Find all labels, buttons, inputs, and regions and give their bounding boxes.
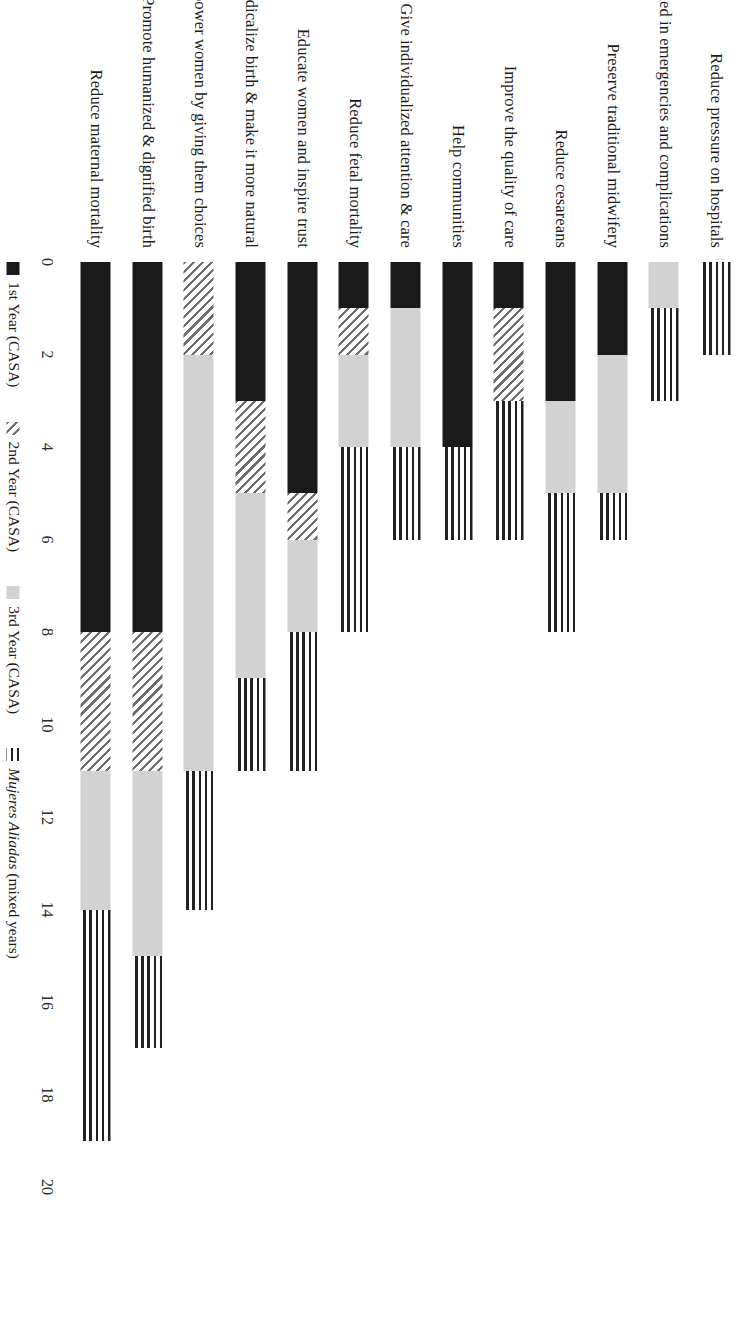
x-axis-tick: 4 bbox=[37, 443, 55, 451]
bar-row: Empower women by giving them choices bbox=[172, 262, 224, 1187]
bar-segment-4 bbox=[648, 308, 678, 401]
chart-legend: 1st Year (CASA)2nd Year (CASA)3rd Year (… bbox=[1, 262, 25, 1187]
bar-segment-4 bbox=[493, 401, 523, 540]
bar-segment-3 bbox=[132, 771, 162, 956]
x-axis-tick: 18 bbox=[37, 1087, 55, 1103]
bar-segment-4 bbox=[597, 493, 627, 539]
stacked-bar-chart: Reduce pressure on hospitalsTrained in e… bbox=[0, 0, 755, 1324]
category-label: Reduce pressure on hospitals bbox=[707, 53, 724, 248]
legend-label: 3rd Year (CASA) bbox=[4, 606, 22, 714]
legend-item[interactable]: Mujeres Aliadas (mixed years) bbox=[4, 748, 22, 959]
stacked-bar bbox=[235, 262, 265, 771]
category-label: Preserve traditional midwifery bbox=[604, 43, 621, 248]
bar-row: De-medicalize birth & make it more natur… bbox=[224, 262, 276, 1187]
bar-row: Reduce fetal mortality bbox=[328, 262, 380, 1187]
bar-segment-2 bbox=[132, 632, 162, 771]
x-axis-tick: 16 bbox=[37, 994, 55, 1010]
category-label: Promote humanized & dignified birth bbox=[138, 0, 155, 248]
diagonal-hatch-swatch bbox=[7, 422, 20, 435]
bar-row: Educate women and inspire trust bbox=[276, 262, 328, 1187]
bar-row: Improve the quality of care bbox=[483, 262, 535, 1187]
bar-row: Reduce maternal mortality bbox=[69, 262, 121, 1187]
stacked-bar bbox=[80, 262, 110, 1141]
legend-item[interactable]: 2nd Year (CASA) bbox=[4, 422, 22, 553]
bar-segment-3 bbox=[183, 355, 213, 771]
bar-segment-3 bbox=[338, 355, 368, 448]
rotated-chart-stage: Reduce pressure on hospitalsTrained in e… bbox=[0, 0, 755, 1324]
bar-segment-2 bbox=[80, 632, 110, 771]
bar-segment-1 bbox=[338, 262, 368, 308]
legend-item[interactable]: 3rd Year (CASA) bbox=[4, 586, 22, 714]
stacked-bar bbox=[287, 262, 317, 771]
bar-segment-2 bbox=[287, 493, 317, 539]
bar-segment-1 bbox=[80, 262, 110, 632]
bar-row: Reduce pressure on hospitals bbox=[689, 262, 741, 1187]
bar-segment-1 bbox=[287, 262, 317, 493]
category-label: De-medicalize birth & make it more natur… bbox=[242, 0, 259, 248]
bar-segment-4 bbox=[287, 632, 317, 771]
x-axis-tick: 14 bbox=[37, 902, 55, 918]
bar-segment-2 bbox=[183, 262, 213, 355]
bar-segment-3 bbox=[287, 540, 317, 633]
legend-label-italic: Mujeres Aliadas bbox=[5, 768, 22, 869]
bar-row: Reduce cesareans bbox=[534, 262, 586, 1187]
stacked-bar bbox=[545, 262, 575, 632]
solid-black-swatch bbox=[7, 262, 20, 275]
bar-segment-1 bbox=[545, 262, 575, 401]
bar-segment-4 bbox=[338, 447, 368, 632]
stacked-bar bbox=[648, 262, 678, 401]
bar-rows: Reduce pressure on hospitalsTrained in e… bbox=[69, 262, 741, 1187]
bar-segment-3 bbox=[390, 308, 420, 447]
category-label: Reduce fetal mortality bbox=[345, 98, 362, 248]
bar-segment-2 bbox=[493, 308, 523, 401]
horizontal-lines-swatch bbox=[7, 748, 20, 761]
bar-segment-3 bbox=[545, 401, 575, 494]
category-label: Help communities bbox=[448, 125, 465, 248]
bar-row: Trained in emergencies and complications bbox=[638, 262, 690, 1187]
bar-segment-1 bbox=[235, 262, 265, 401]
category-label: Improve the quality of care bbox=[500, 66, 517, 248]
bar-segment-2 bbox=[338, 308, 368, 354]
x-axis-tick: 10 bbox=[37, 717, 55, 733]
bar-segment-4 bbox=[132, 956, 162, 1049]
bar-segment-4 bbox=[442, 447, 472, 540]
legend-label: 1st Year (CASA) bbox=[4, 282, 22, 388]
legend-item[interactable]: 1st Year (CASA) bbox=[4, 262, 22, 388]
bar-segment-4 bbox=[390, 447, 420, 540]
stacked-bar bbox=[597, 262, 627, 540]
legend-label-rest: (mixed years) bbox=[5, 869, 22, 959]
x-axis-tick: 8 bbox=[37, 628, 55, 636]
x-axis-tick: 6 bbox=[37, 536, 55, 544]
stacked-bar bbox=[390, 262, 420, 540]
stacked-bar bbox=[700, 262, 730, 355]
bar-segment-1 bbox=[597, 262, 627, 355]
bar-segment-1 bbox=[493, 262, 523, 308]
x-axis: 02468101214161820 bbox=[29, 262, 55, 1187]
category-label: Reduce maternal mortality bbox=[87, 70, 104, 248]
bar-segment-4 bbox=[700, 262, 730, 355]
x-axis-tick: 0 bbox=[37, 258, 55, 266]
legend-label: Mujeres Aliadas (mixed years) bbox=[4, 768, 22, 959]
x-axis-tick: 20 bbox=[37, 1179, 55, 1195]
stacked-bar bbox=[183, 262, 213, 910]
stacked-bar bbox=[132, 262, 162, 1048]
x-axis-tick: 2 bbox=[37, 351, 55, 359]
bar-segment-3 bbox=[648, 262, 678, 308]
category-label: Empower women by giving them choices bbox=[190, 0, 207, 248]
category-label: Trained in emergencies and complications bbox=[655, 0, 672, 248]
bar-row: Promote humanized & dignified birth bbox=[121, 262, 173, 1187]
stacked-bar bbox=[338, 262, 368, 632]
bar-segment-3 bbox=[597, 355, 627, 494]
bar-segment-3 bbox=[235, 493, 265, 678]
bar-segment-3 bbox=[80, 771, 110, 910]
bar-segment-1 bbox=[132, 262, 162, 632]
bar-segment-2 bbox=[235, 401, 265, 494]
bar-row: Help communities bbox=[431, 262, 483, 1187]
category-label: Give individualized attention & care bbox=[397, 3, 414, 248]
bar-row: Give individualized attention & care bbox=[379, 262, 431, 1187]
light-grey-swatch bbox=[7, 586, 20, 599]
stacked-bar bbox=[442, 262, 472, 540]
bar-segment-4 bbox=[80, 910, 110, 1141]
bar-row: Preserve traditional midwifery bbox=[586, 262, 638, 1187]
legend-label: 2nd Year (CASA) bbox=[4, 442, 22, 553]
